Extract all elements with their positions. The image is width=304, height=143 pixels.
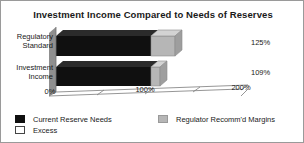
axis-tick-label-0: 0% bbox=[33, 87, 67, 96]
plot-area: Regulatory Standard Investment Income 12… bbox=[1, 25, 304, 97]
axis-tick-label-200: 200% bbox=[224, 83, 258, 92]
value-label-regulatory-standard: 125% bbox=[251, 38, 270, 47]
category-label-investment-line2: Income bbox=[1, 73, 53, 82]
legend-label-regulator-margins: Regulator Recomm'd Margins bbox=[176, 115, 275, 124]
bar-segment-reserve-needs-top bbox=[56, 30, 158, 36]
bar-regulatory-standard bbox=[56, 30, 182, 56]
legend-label-current-reserve-needs: Current Reserve Needs bbox=[33, 115, 112, 124]
bar2-segment-reserve-needs bbox=[56, 67, 151, 86]
chart-title: Investment Income Compared to Needs of R… bbox=[1, 9, 304, 20]
bar-segment-margins bbox=[151, 36, 175, 56]
category-label-regulatory-standard: Regulatory Standard bbox=[1, 33, 53, 50]
bar-segment-reserve-needs bbox=[56, 36, 151, 56]
chart-container: Investment Income Compared to Needs of R… bbox=[0, 0, 304, 143]
axis-tick-150 bbox=[193, 87, 200, 92]
legend-swatch-excess bbox=[15, 126, 25, 134]
legend-swatch-current-reserve-needs bbox=[15, 115, 25, 123]
axis-tick-label-100: 100% bbox=[128, 85, 162, 94]
legend-swatch-regulator-margins bbox=[158, 115, 168, 123]
chart-legend: Current Reserve Needs Excess Regulator R… bbox=[1, 113, 304, 143]
legend-label-excess: Excess bbox=[33, 126, 57, 135]
bar2-segment-reserve-needs-top bbox=[56, 61, 158, 67]
value-label-investment-income: 109% bbox=[251, 68, 270, 77]
category-label-regulatory-line2: Standard bbox=[1, 42, 53, 51]
bar2-segment-margins bbox=[151, 67, 160, 86]
bar-investment-income bbox=[56, 61, 167, 86]
category-label-investment-income: Investment Income bbox=[1, 64, 53, 81]
